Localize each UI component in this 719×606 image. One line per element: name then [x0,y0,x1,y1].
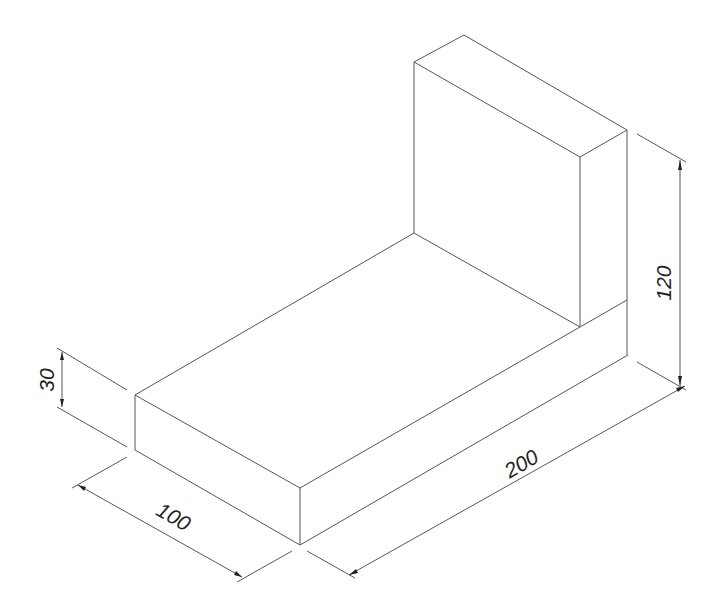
dimension-label-30: 30 [35,368,58,392]
upright-top-face [414,35,627,157]
step-edge [580,300,627,327]
dimension-100: 100 [72,457,292,582]
dimension-200: 200 [307,386,685,578]
dimension-label-100: 100 [153,498,195,536]
inner-corner-edge [414,233,580,327]
base-back-top-edge [135,233,414,395]
base-front-bottom-edge [300,355,628,545]
dimension-label-200: 200 [499,445,542,483]
isometric-drawing: 120 30 100 200 [0,0,719,606]
base-left-top-edge [135,395,300,488]
part-outline [135,35,628,545]
dimension-label-120: 120 [652,265,675,300]
dimension-30: 30 [35,348,127,447]
dimension-120: 120 [637,134,686,390]
